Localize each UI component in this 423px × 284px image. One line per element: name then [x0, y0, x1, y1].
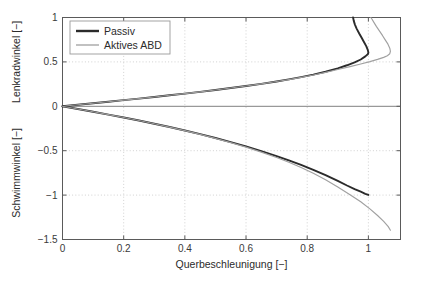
- y-tick-label: −1: [46, 190, 58, 201]
- x-tick-label: 0.2: [117, 243, 131, 254]
- y-axis-title-top: Lenkradwinkel [−]: [10, 21, 22, 103]
- y-tick-label: 0: [52, 101, 58, 112]
- x-tick-label: 0: [60, 243, 66, 254]
- y-tick-label: 0.5: [44, 56, 58, 67]
- x-axis-title: Querbeschleunigung [−]: [176, 258, 288, 270]
- x-tick-label: 0.4: [178, 243, 192, 254]
- x-tick-label: 1: [366, 243, 372, 254]
- legend-label-aktives-abd: Aktives ABD: [104, 39, 162, 51]
- x-tick-label: 0.8: [300, 243, 314, 254]
- y-tick-label: 1: [52, 12, 58, 23]
- legend: PassivAktives ABD: [70, 21, 170, 54]
- y-tick-label: −0.5: [38, 145, 58, 156]
- y-tick-label: −1.5: [38, 234, 58, 245]
- chart-figure: 00.20.40.60.8110.50−0.5−1−1.5 Querbeschl…: [0, 0, 423, 284]
- y-axis-title-bottom: Schwimmwinkel [−]: [10, 128, 22, 218]
- chart-svg: 00.20.40.60.8110.50−0.5−1−1.5 Querbeschl…: [0, 0, 423, 284]
- series-aktives-abd-bottom: [63, 106, 391, 230]
- legend-label-passiv: Passiv: [104, 25, 136, 37]
- x-tick-label: 0.6: [239, 243, 253, 254]
